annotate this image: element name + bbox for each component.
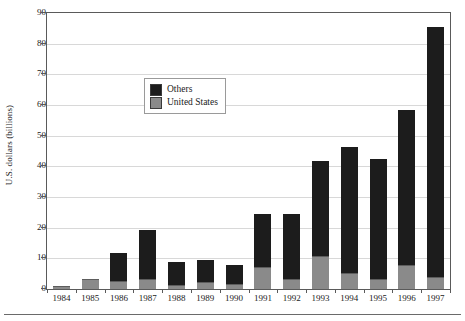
x-axis-tick-label-1984: 1984 (52, 294, 70, 303)
bar-segment-others[interactable] (110, 253, 127, 281)
legend-item-united-states: United States (150, 96, 218, 109)
y-axis-ticks: 0102030405060708090 (0, 0, 46, 301)
x-axis-tick-mark (162, 289, 163, 293)
bar-segment-united-states[interactable] (312, 256, 329, 289)
bar-segment-united-states[interactable] (398, 265, 415, 289)
x-axis-tick-mark (249, 289, 250, 293)
bar-segment-united-states[interactable] (139, 279, 156, 289)
x-axis-tick-label-1991: 1991 (254, 294, 272, 303)
chart-legend: Others United States (144, 78, 226, 114)
x-axis-tick-mark (133, 289, 134, 293)
bar-segment-others[interactable] (139, 230, 156, 279)
x-axis-tick-label-1996: 1996 (398, 294, 416, 303)
bar-segment-others[interactable] (312, 161, 329, 256)
x-axis-tick-label-1993: 1993 (311, 294, 329, 303)
x-axis-tick-mark (421, 289, 422, 293)
bar-1993[interactable] (312, 161, 329, 289)
x-axis-tick-mark (364, 289, 365, 293)
x-axis-tick-mark (76, 289, 77, 293)
bar-1988[interactable] (168, 262, 185, 289)
x-axis-tick-label-1990: 1990 (225, 294, 243, 303)
bar-segment-united-states[interactable] (82, 279, 99, 289)
x-axis-tick-label-1988: 1988 (168, 294, 186, 303)
bar-1986[interactable] (110, 253, 127, 289)
bar-1991[interactable] (254, 214, 271, 289)
bar-segment-others[interactable] (398, 110, 415, 265)
plot-area (46, 12, 451, 290)
legend-item-others: Others (150, 83, 218, 96)
x-axis-tick-mark (335, 289, 336, 293)
bar-1990[interactable] (226, 265, 243, 289)
bar-1996[interactable] (398, 110, 415, 289)
x-axis-tick-label-1986: 1986 (110, 294, 128, 303)
bar-1994[interactable] (341, 147, 358, 289)
bar-segment-others[interactable] (370, 159, 387, 279)
bar-segment-united-states[interactable] (427, 277, 444, 289)
x-axis-tick-mark (450, 289, 451, 293)
gray-square-swatch-icon (150, 97, 162, 109)
black-square-swatch-icon (150, 84, 162, 96)
bottom-divider-rule (4, 314, 461, 315)
bar-segment-united-states[interactable] (283, 279, 300, 289)
bar-segment-others[interactable] (168, 262, 185, 285)
bar-1987[interactable] (139, 230, 156, 289)
bar-series-container (47, 13, 450, 289)
x-axis-tick-mark (191, 289, 192, 293)
x-axis-tick-label-1992: 1992 (283, 294, 301, 303)
bar-segment-others[interactable] (197, 260, 214, 281)
bar-segment-united-states[interactable] (110, 281, 127, 289)
bar-1989[interactable] (197, 260, 214, 289)
bar-segment-united-states[interactable] (254, 267, 271, 289)
x-axis: 1984198519861987198819891990199119921993… (46, 289, 451, 311)
x-axis-tick-mark (277, 289, 278, 293)
x-axis-tick-label-1989: 1989 (196, 294, 214, 303)
legend-label-united-states: United States (167, 98, 218, 108)
x-axis-tick-mark (220, 289, 221, 293)
bar-1985[interactable] (82, 279, 99, 289)
x-axis-tick-label-1994: 1994 (340, 294, 358, 303)
x-axis-tick-mark (392, 289, 393, 293)
x-axis-tick-mark (47, 289, 48, 293)
x-axis-tick-label-1985: 1985 (81, 294, 99, 303)
bar-segment-others[interactable] (283, 214, 300, 278)
x-axis-tick-mark (306, 289, 307, 293)
x-axis-tick-label-1995: 1995 (369, 294, 387, 303)
bar-1995[interactable] (370, 159, 387, 289)
legend-label-others: Others (167, 85, 192, 95)
bar-segment-united-states[interactable] (197, 282, 214, 289)
bar-segment-united-states[interactable] (370, 279, 387, 289)
x-axis-tick-label-1987: 1987 (139, 294, 157, 303)
bar-1997[interactable] (427, 27, 444, 289)
bar-segment-others[interactable] (341, 147, 358, 273)
bar-segment-united-states[interactable] (341, 273, 358, 289)
bar-segment-others[interactable] (427, 27, 444, 277)
bar-1992[interactable] (283, 214, 300, 289)
bar-segment-others[interactable] (226, 265, 243, 284)
x-axis-tick-mark (105, 289, 106, 293)
stacked-bar-chart-figure: U.S. dollars (billions) 0102030405060708… (0, 0, 465, 321)
x-axis-tick-label-1997: 1997 (427, 294, 445, 303)
bar-segment-others[interactable] (254, 214, 271, 266)
